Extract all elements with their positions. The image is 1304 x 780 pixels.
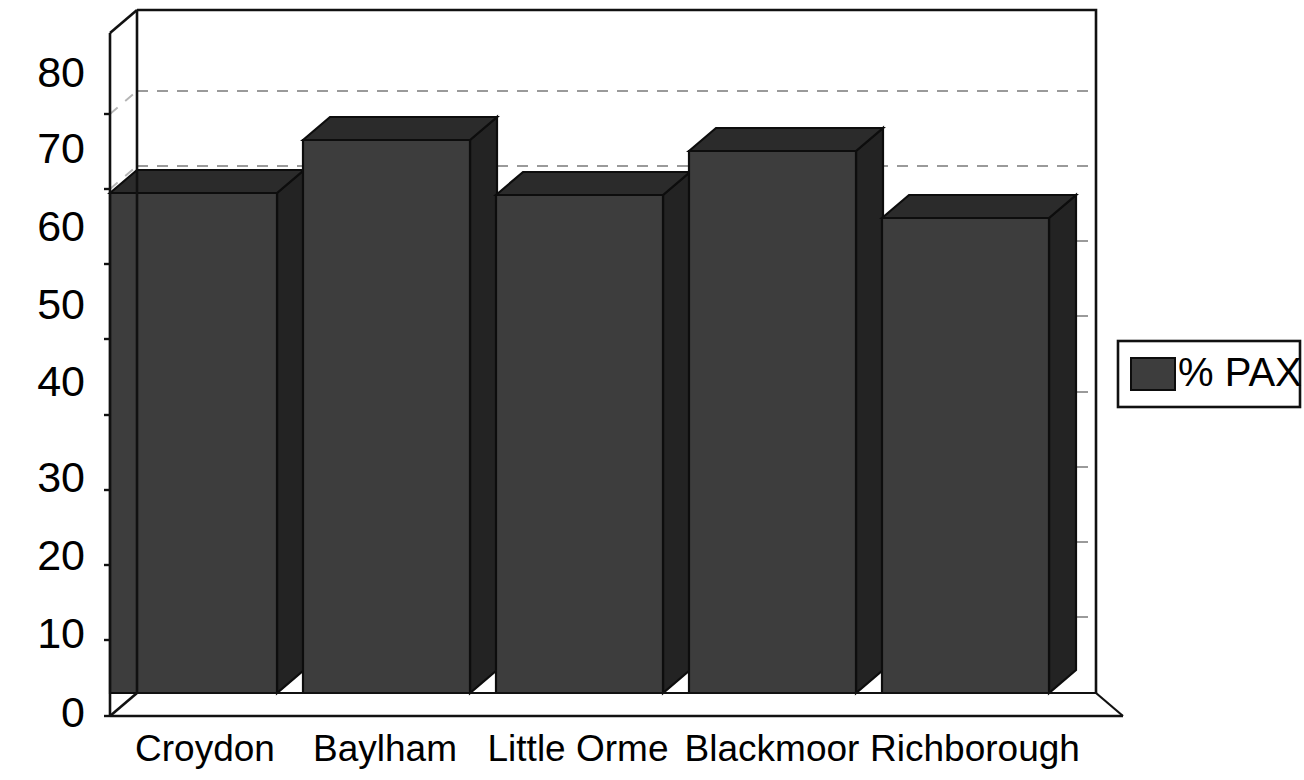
y-tick-label-10: 10 bbox=[37, 609, 85, 657]
y-tick-label-20: 20 bbox=[37, 531, 85, 579]
floor bbox=[110, 693, 1123, 716]
y-tick-label-40: 40 bbox=[37, 357, 85, 405]
legend-swatch-pax bbox=[1131, 358, 1175, 390]
chart-canvas: 80 70 60 50 40 30 20 10 0 Croydon Baylha… bbox=[0, 0, 1304, 780]
bar-top-blackmoor bbox=[689, 128, 883, 151]
bar-side-richborough bbox=[1049, 195, 1076, 693]
bar-croydon[interactable] bbox=[110, 170, 304, 693]
y-tick-label-0: 0 bbox=[61, 688, 85, 736]
bar-front-little-orme bbox=[496, 195, 663, 693]
bar-chart: 80 70 60 50 40 30 20 10 0 Croydon Baylha… bbox=[0, 0, 1304, 780]
bar-richborough[interactable] bbox=[882, 195, 1076, 693]
bar-baylham[interactable] bbox=[303, 117, 497, 693]
category-label-blackmoor: Blackmoor bbox=[685, 728, 860, 769]
bar-little-orme[interactable] bbox=[496, 172, 690, 693]
bar-side-croydon bbox=[277, 170, 304, 693]
bar-blackmoor[interactable] bbox=[689, 128, 883, 693]
y-tick-label-80: 80 bbox=[37, 48, 85, 96]
bar-side-blackmoor bbox=[856, 128, 883, 693]
legend-label-pax: % PAX bbox=[1178, 350, 1302, 394]
legend[interactable]: % PAX bbox=[1118, 341, 1302, 407]
bar-top-richborough bbox=[882, 195, 1076, 218]
bar-front-baylham bbox=[303, 140, 470, 693]
category-label-richborough: Richborough bbox=[870, 728, 1080, 769]
y-tick-label-30: 30 bbox=[37, 453, 85, 501]
bar-top-little-orme bbox=[496, 172, 690, 195]
bar-front-richborough bbox=[882, 218, 1049, 693]
x-axis-category-labels: Croydon Baylham Little Orme Blackmoor Ri… bbox=[135, 728, 1080, 769]
bar-front-blackmoor bbox=[689, 151, 856, 693]
bar-side-baylham bbox=[470, 117, 497, 693]
y-axis-tick-labels: 80 70 60 50 40 30 20 10 0 bbox=[37, 48, 85, 736]
bar-top-croydon bbox=[110, 170, 304, 193]
bar-side-little-orme bbox=[663, 172, 690, 693]
category-label-baylham: Baylham bbox=[313, 728, 457, 769]
y-tick-label-60: 60 bbox=[37, 202, 85, 250]
category-label-croydon: Croydon bbox=[135, 728, 275, 769]
category-label-little-orme: Little Orme bbox=[488, 728, 669, 769]
bar-top-baylham bbox=[303, 117, 497, 140]
y-tick-label-70: 70 bbox=[37, 124, 85, 172]
bar-front-croydon bbox=[110, 193, 277, 693]
y-tick-label-50: 50 bbox=[37, 280, 85, 328]
